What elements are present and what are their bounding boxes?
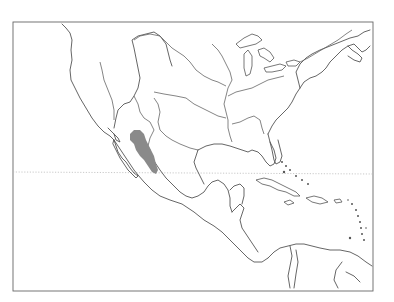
cuba xyxy=(256,178,300,196)
tropic-of-cancer-line xyxy=(13,172,373,174)
tennessee-river xyxy=(232,116,264,134)
pacific-coastline xyxy=(62,24,268,262)
central-america-caribbean-coast xyxy=(232,204,258,252)
mississippi-river xyxy=(212,44,232,142)
hispaniola xyxy=(306,196,328,204)
great-lakes xyxy=(236,34,300,76)
species-range-area xyxy=(130,130,158,174)
lesser-antilles xyxy=(347,199,367,241)
range-map xyxy=(0,0,394,302)
colorado-river xyxy=(100,62,114,120)
ohio-river xyxy=(228,76,284,96)
missouri-river xyxy=(134,34,226,86)
gulf-of-california-coast xyxy=(114,32,172,128)
south-america-coast xyxy=(268,244,372,288)
red-river xyxy=(154,98,198,150)
map-frame xyxy=(13,22,373,291)
bahamas xyxy=(281,161,309,185)
caribbean-islands xyxy=(256,161,367,241)
yucatan-peninsula xyxy=(230,184,244,204)
jamaica xyxy=(284,200,294,205)
puerto-rico xyxy=(334,199,342,203)
arkansas-river xyxy=(154,92,226,118)
atlantic-coastline xyxy=(268,44,370,164)
